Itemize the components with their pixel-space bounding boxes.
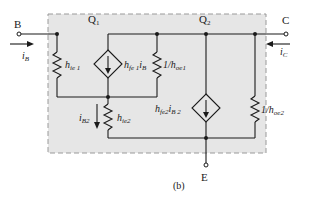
ib-arrowhead: [27, 41, 34, 47]
node: [253, 32, 257, 36]
node: [204, 32, 208, 36]
emitter-label: E: [201, 171, 208, 183]
node: [106, 95, 110, 99]
node: [204, 136, 208, 140]
node: [55, 32, 59, 36]
ib-label: iB: [22, 50, 30, 63]
collector-terminal: [284, 32, 288, 36]
emitter-terminal: [204, 163, 208, 167]
darlington-h-parameter-circuit: B C E (b) Q1 Q2 iB iC iB2 hie 1 hfe 1iB …: [0, 0, 310, 204]
base-label: B: [14, 18, 21, 30]
collector-label: C: [282, 14, 289, 26]
node: [155, 32, 159, 36]
caption: (b): [173, 180, 185, 192]
ic-arrowhead: [266, 41, 273, 47]
base-terminal: [17, 32, 21, 36]
ic-label: iC: [280, 46, 288, 59]
